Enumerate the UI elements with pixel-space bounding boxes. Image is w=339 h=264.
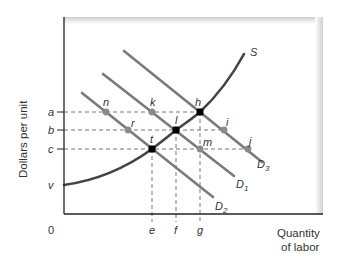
- label-l: l: [175, 114, 178, 126]
- label-m: m: [203, 136, 212, 148]
- label-r: r: [131, 117, 136, 129]
- point-k: [149, 109, 156, 116]
- d1-sub: 1: [244, 184, 248, 193]
- labor-market-diagram: n k h r l i t m j S D3 D1 D2 a b c v e f…: [0, 0, 339, 264]
- label-n: n: [103, 96, 109, 108]
- d1-letter: D: [236, 178, 244, 190]
- d3-sub: 3: [265, 164, 270, 173]
- d2-letter: D: [215, 200, 223, 212]
- y-tick-a: a: [48, 106, 54, 118]
- label-i: i: [226, 116, 229, 128]
- y-tick-b: b: [48, 124, 54, 136]
- x-tick-e: e: [149, 224, 155, 236]
- point-h: [197, 109, 204, 116]
- label-d1: D1: [236, 178, 248, 193]
- point-l: [173, 127, 180, 134]
- y-tick-c: c: [48, 143, 54, 155]
- demand-curves: [82, 51, 262, 197]
- label-d2: D2: [215, 200, 228, 215]
- label-j: j: [247, 135, 252, 147]
- label-h: h: [195, 96, 201, 108]
- x-axis-title-line2: of labor: [281, 241, 320, 253]
- point-n: [103, 109, 110, 116]
- d2-sub: 2: [222, 206, 228, 215]
- y-tick-v: v: [48, 179, 55, 191]
- x-tick-g: g: [197, 224, 204, 236]
- origin-label: 0: [48, 224, 54, 236]
- axes: [64, 17, 323, 214]
- point-t: [149, 146, 156, 153]
- label-s: S: [250, 46, 258, 58]
- y-axis-title: Dollars per unit: [17, 100, 29, 178]
- panel-top-shade: [64, 17, 323, 24]
- x-tick-f: f: [174, 224, 178, 236]
- y-ticks: [57, 112, 64, 149]
- d3-letter: D: [257, 158, 265, 170]
- label-d3: D3: [257, 158, 270, 173]
- panel-right-shade: [315, 17, 323, 214]
- label-k: k: [150, 96, 156, 108]
- x-axis-title-line1: Quantity: [277, 227, 320, 239]
- label-t: t: [150, 133, 154, 145]
